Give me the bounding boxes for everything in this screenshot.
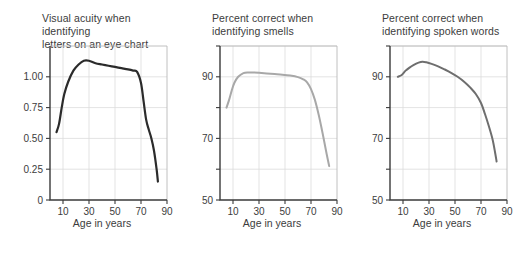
x-tick-label: 90 (161, 206, 173, 215)
y-tick-label: 90 (372, 71, 384, 82)
axis-lines (220, 46, 337, 200)
x-tick-label: 10 (57, 206, 69, 215)
plot-area-2: 5070901030507090 (344, 40, 514, 215)
x-tick-label: 70 (305, 206, 317, 215)
chart-title-2: Percent correct when identifying spoken … (382, 12, 514, 40)
x-tick-label: 50 (279, 206, 291, 215)
plot-area-1: 5070901030507090 (174, 40, 344, 215)
x-tick-label: 50 (109, 206, 121, 215)
line-chart-svg-0: 00.250.500.751.001030507090 (4, 40, 174, 215)
chart-panel-visual-acuity: Visual acuity when identifying letters o… (4, 8, 174, 259)
y-tick-label: 50 (202, 195, 214, 206)
x-tick-label: 50 (449, 206, 461, 215)
data-series-line (227, 72, 330, 166)
line-chart-svg-1: 5070901030507090 (174, 40, 344, 215)
axis-lines (50, 46, 167, 200)
x-tick-label: 30 (423, 206, 435, 215)
x-tick-label: 70 (135, 206, 147, 215)
chart-panel-smells: Percent correct when identifying smells … (174, 8, 344, 259)
x-tick-label: 30 (253, 206, 265, 215)
y-tick-label: 0.25 (24, 164, 44, 175)
y-tick-label: 1.00 (24, 71, 44, 82)
x-axis-label-1: Age in years (174, 217, 344, 229)
y-tick-label: 0.50 (24, 133, 44, 144)
y-tick-label: 50 (372, 195, 384, 206)
x-tick-label: 90 (501, 206, 513, 215)
x-tick-label: 10 (227, 206, 239, 215)
chart-title-1: Percent correct when identifying smells (212, 12, 344, 40)
y-tick-label: 0.75 (24, 102, 44, 113)
plot-frame (220, 46, 337, 200)
x-tick-label: 70 (475, 206, 487, 215)
x-axis-label-0: Age in years (4, 217, 174, 229)
y-tick-label: 90 (202, 71, 214, 82)
y-tick-label: 70 (202, 133, 214, 144)
y-tick-label: 70 (372, 133, 384, 144)
chart-panel-spoken-words: Percent correct when identifying spoken … (344, 8, 514, 259)
plot-frame (50, 46, 167, 200)
data-series-line (57, 60, 158, 181)
x-axis-label-2: Age in years (344, 217, 514, 229)
chart-title-0: Visual acuity when identifying letters o… (42, 12, 174, 40)
x-tick-label: 30 (83, 206, 95, 215)
plot-area-0: 00.250.500.751.001030507090 (4, 40, 174, 215)
y-tick-label: 0 (37, 195, 43, 206)
line-chart-svg-2: 5070901030507090 (344, 40, 514, 215)
x-tick-label: 90 (331, 206, 343, 215)
x-tick-label: 10 (397, 206, 409, 215)
